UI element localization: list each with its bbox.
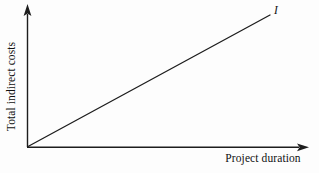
indirect-cost-series-line — [28, 15, 270, 147]
x-axis-label: Project duration — [213, 152, 313, 165]
y-axis-label: Total indirect costs — [5, 0, 21, 173]
chart-plot-area — [0, 0, 319, 173]
series-label-i: I — [274, 4, 278, 16]
indirect-cost-chart: Total indirect costs Project duration I — [0, 0, 319, 173]
